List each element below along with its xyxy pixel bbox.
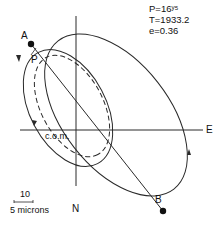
scale-bar-units: 5 microns: [10, 206, 49, 215]
line-of-apsides: [31, 44, 163, 211]
inner-orbit-ellipse: [5, 35, 131, 182]
orbit-parameters: P=16ʸ⁵ T=1933.2 e=0.36: [149, 3, 189, 36]
point-a-label: A: [21, 31, 28, 41]
direction-arrow-left: [16, 55, 21, 62]
point-b-label: B: [155, 195, 162, 205]
outer-orbit-ellipse: [16, 8, 215, 221]
orbit-diagram: [0, 0, 223, 229]
north-label: N: [72, 204, 79, 214]
eccentricity-label: e=0.36: [149, 25, 189, 36]
center-of-mass-label: c.o.m.: [45, 132, 70, 141]
point-b-marker: [160, 208, 166, 214]
periastron-time-label: T=1933.2: [149, 14, 189, 25]
point-a-marker: [28, 41, 34, 47]
periastron-label: P: [31, 55, 38, 65]
east-label: E: [206, 125, 213, 135]
period-label: P=16ʸ⁵: [149, 3, 189, 14]
scale-bar-value: 10: [20, 190, 30, 199]
